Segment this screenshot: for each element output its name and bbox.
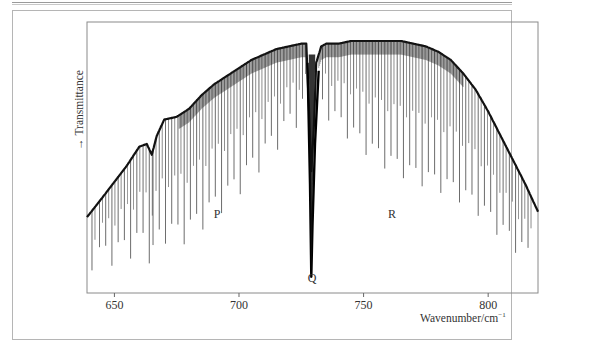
x-axis-title-exponent: −1	[498, 311, 505, 319]
x-tick-label: 700	[230, 298, 248, 313]
x-tick-label: 750	[355, 298, 373, 313]
arrow-up-icon: →	[73, 139, 85, 151]
y-axis-title-text: Transmittance	[73, 70, 85, 135]
branch-label-q: Q	[308, 271, 317, 286]
branch-label-p: P	[214, 207, 221, 222]
spectrum-plot	[0, 0, 612, 346]
x-tick-label: 650	[105, 298, 123, 313]
y-axis-title: →Transmittance	[73, 70, 85, 150]
x-axis-ticks	[114, 293, 488, 297]
spectrum-envelope	[87, 41, 538, 277]
branch-label-r: R	[388, 207, 396, 222]
x-axis-title: Wavenumber/cm−1	[420, 311, 506, 324]
x-axis-title-text: Wavenumber/cm	[420, 312, 498, 324]
